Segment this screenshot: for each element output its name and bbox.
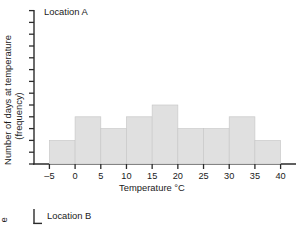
histogram-bar (152, 105, 178, 164)
bar-series (49, 105, 280, 164)
x-axis-tick-label: 35 (250, 171, 260, 181)
histogram-bar (204, 129, 230, 164)
x-axis-tick-label: –5 (44, 171, 54, 181)
histogram-bar (49, 140, 75, 164)
x-axis-tick-label: 40 (275, 171, 285, 181)
x-axis-tick-label: 10 (121, 171, 131, 181)
x-axis-label: Temperature °C (119, 182, 185, 193)
x-axis-ticks (49, 164, 280, 169)
panel-title-location-a: Location A (44, 6, 89, 17)
x-axis-tick-label: 0 (73, 171, 78, 181)
histogram-bar (255, 140, 281, 164)
x-axis-tick-label: 25 (198, 171, 208, 181)
x-axis-tick-labels: –50510152025303540 (44, 171, 285, 181)
y-axis-ticks (29, 11, 34, 164)
panel-title-location-b: Location B (47, 210, 91, 221)
histogram-bar (229, 117, 255, 164)
y-axis-label-line2: (frequency) (13, 92, 24, 139)
x-axis-tick-label: 30 (224, 171, 234, 181)
x-axis-tick-label: 20 (173, 171, 183, 181)
x-axis-tick-label: 15 (147, 171, 157, 181)
histogram-bar (178, 129, 204, 164)
histogram-bar (126, 117, 152, 164)
histogram-location-a: Number of days at temperature (frequency… (0, 0, 300, 229)
x-axis-tick-label: 5 (98, 171, 103, 181)
histogram-bar (101, 129, 127, 164)
y-axis-label-fragment-location-b: e (0, 217, 9, 222)
histogram-bar (75, 117, 101, 164)
y-axis-label-line1: Number of days at temperature (2, 35, 13, 165)
figure-container: Number of days at temperature (frequency… (0, 0, 300, 229)
